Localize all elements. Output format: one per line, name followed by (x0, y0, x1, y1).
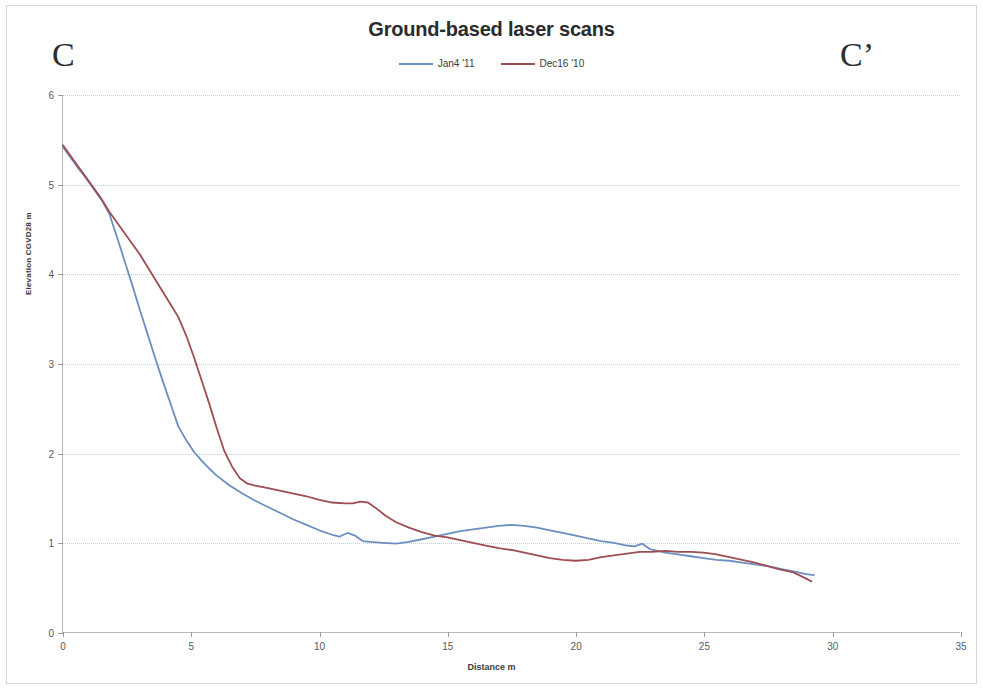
x-tick-label: 20 (571, 641, 582, 652)
legend-label-series-1: Jan4 '11 (438, 58, 475, 69)
x-tick-label: 35 (955, 641, 966, 652)
x-tick-label: 10 (314, 641, 325, 652)
series-line-1 (63, 147, 814, 575)
plot-wrapper: 0123456 05101520253035 (62, 95, 960, 633)
legend-label-series-2: Dec16 '10 (540, 58, 585, 69)
chart-legend: Jan4 '11 Dec16 '10 (0, 58, 983, 69)
legend-item-series-1[interactable]: Jan4 '11 (399, 58, 475, 69)
y-tick-label: 6 (48, 90, 54, 101)
legend-swatch-series-2 (501, 63, 535, 65)
x-tick-mark (320, 632, 321, 637)
x-tick-mark (191, 632, 192, 637)
legend-item-series-2[interactable]: Dec16 '10 (501, 58, 585, 69)
x-tick-mark (63, 632, 64, 637)
y-tick-label: 1 (48, 538, 54, 549)
series-lines (63, 95, 960, 632)
y-axis-title: Elevation CGVD28 m (24, 212, 33, 295)
annotation-section-end: C’ (840, 36, 874, 74)
x-axis-title: Distance m (0, 662, 983, 672)
y-tick-label: 2 (48, 448, 54, 459)
series-line-2 (63, 145, 811, 581)
annotation-section-start: C (52, 36, 75, 74)
y-tick-label: 5 (48, 179, 54, 190)
y-tick-label: 3 (48, 359, 54, 370)
plot-area: 0123456 05101520253035 (62, 95, 960, 633)
legend-swatch-series-1 (399, 63, 433, 65)
x-tick-mark (704, 632, 705, 637)
x-tick-mark (576, 632, 577, 637)
chart-page: Ground-based laser scans Jan4 '11 Dec16 … (0, 0, 983, 689)
y-tick-label: 4 (48, 269, 54, 280)
x-tick-label: 15 (442, 641, 453, 652)
x-tick-label: 30 (827, 641, 838, 652)
x-tick-label: 25 (699, 641, 710, 652)
y-tick-label: 0 (48, 628, 54, 639)
x-tick-mark (961, 632, 962, 637)
x-tick-label: 0 (60, 641, 66, 652)
x-tick-label: 5 (189, 641, 195, 652)
x-tick-mark (448, 632, 449, 637)
chart-title: Ground-based laser scans (0, 18, 983, 41)
x-tick-mark (833, 632, 834, 637)
